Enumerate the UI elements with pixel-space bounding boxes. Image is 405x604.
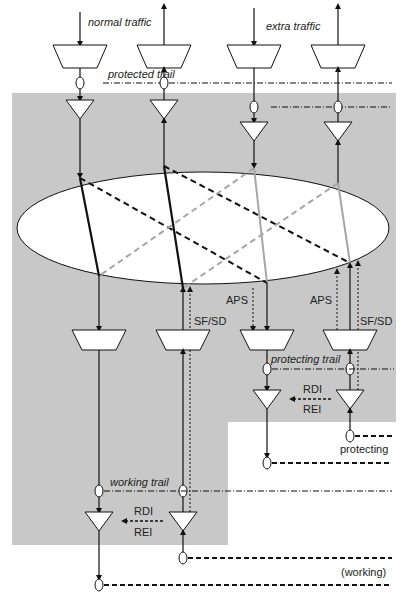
termination-point — [179, 552, 187, 564]
label-working: (working) — [341, 566, 386, 578]
termination-point — [263, 363, 271, 375]
label-rdi-protecting: RDI — [303, 383, 322, 395]
label-protecting: protecting — [340, 443, 388, 455]
adapter-trapezoid — [227, 45, 281, 68]
label-rei-working: REI — [134, 526, 152, 538]
label-protected-trail: protected trail — [107, 68, 175, 80]
termination-point — [334, 101, 342, 113]
protection-diagram: normal traffic extra traffic protected t… — [0, 0, 405, 604]
termination-point — [76, 77, 84, 89]
adapter-trapezoid — [137, 45, 191, 68]
adapter-trapezoid — [72, 330, 126, 350]
termination-point — [95, 579, 103, 591]
connection-matrix-ellipse — [17, 172, 389, 284]
label-rei-protecting: REI — [303, 403, 321, 415]
adapter-trapezoid — [240, 330, 294, 350]
label-sfsd-right: SF/SD — [360, 315, 392, 327]
termination-point — [346, 430, 354, 442]
label-extra-traffic: extra traffic — [266, 20, 321, 32]
label-protecting-trail: protecting trail — [270, 353, 341, 365]
termination-point — [263, 457, 271, 469]
label-aps-left: APS — [226, 294, 248, 306]
label-aps-right: APS — [310, 294, 332, 306]
termination-point — [95, 485, 103, 497]
adapter-trapezoid — [156, 330, 210, 350]
label-normal-traffic: normal traffic — [88, 16, 152, 28]
label-rdi-working: RDI — [134, 505, 153, 517]
adapter-trapezoid — [53, 45, 107, 68]
adapter-trapezoid — [323, 330, 377, 350]
termination-point — [250, 101, 258, 113]
adapter-trapezoid — [311, 45, 365, 68]
label-working-trail: working trail — [110, 476, 169, 488]
label-sfsd-left: SF/SD — [194, 315, 226, 327]
